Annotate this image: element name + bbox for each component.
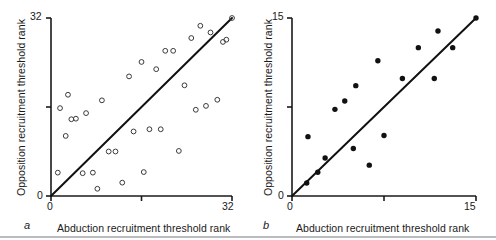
data-point — [120, 180, 125, 185]
data-point — [322, 155, 327, 160]
data-point — [215, 97, 220, 102]
panel-b: Opposition recruitment threshold rank Ab… — [248, 0, 496, 240]
data-point — [100, 98, 105, 103]
y-tick-min-a: 0 — [37, 189, 43, 201]
data-point — [473, 15, 478, 20]
data-point — [305, 134, 310, 139]
data-point — [400, 76, 405, 81]
data-point — [198, 23, 203, 28]
data-point — [66, 92, 71, 97]
identity-line — [292, 18, 476, 196]
y-tick-max-a: 32 — [30, 10, 42, 22]
data-point — [375, 58, 380, 63]
x-tick-min-a: 0 — [47, 200, 53, 212]
data-point — [342, 98, 347, 103]
data-point — [84, 111, 89, 116]
data-point — [193, 107, 198, 112]
x-tick-max-a: 32 — [222, 200, 234, 212]
data-point — [432, 76, 437, 81]
panel-letter-a: a — [24, 219, 30, 231]
data-point — [381, 133, 386, 138]
panel-a: Opposition recruitment threshold rank Ab… — [0, 0, 248, 240]
identity-line — [51, 18, 232, 196]
y-tick-max-b: 15 — [272, 10, 284, 22]
x-axis-label-b: Abduction recruitment threshold rank — [296, 222, 469, 234]
data-point — [208, 30, 213, 35]
data-point — [154, 67, 159, 72]
data-point — [106, 149, 111, 154]
y-tick-min-b: 0 — [278, 189, 284, 201]
y-axis-label-b: Opposition recruitment threshold rank — [262, 19, 274, 196]
panel-letter-b: b — [263, 219, 269, 231]
data-point — [127, 74, 132, 79]
data-point — [435, 28, 440, 33]
data-point — [176, 149, 181, 154]
data-point — [131, 129, 136, 134]
data-point — [158, 127, 163, 132]
data-point — [353, 83, 358, 88]
data-point — [63, 134, 68, 139]
x-tick-max-b: 15 — [464, 200, 476, 212]
x-tick-min-b: 0 — [287, 200, 293, 212]
data-point — [90, 170, 95, 175]
data-point — [367, 162, 372, 167]
data-point — [139, 60, 144, 65]
data-point — [332, 107, 337, 112]
figure-bottom-rule — [0, 236, 496, 238]
y-axis-label-a: Opposition recruitment threshold rank — [15, 19, 27, 196]
data-point — [450, 45, 455, 50]
data-point — [182, 83, 187, 88]
scatter-plot-a — [0, 0, 248, 240]
data-point — [304, 180, 309, 185]
data-point — [95, 186, 100, 191]
data-point — [80, 171, 85, 176]
data-point — [55, 170, 60, 175]
scatter-plot-b — [248, 0, 496, 240]
data-point — [189, 36, 194, 41]
data-point — [315, 170, 320, 175]
data-point — [204, 103, 209, 108]
data-point — [416, 45, 421, 50]
data-point — [171, 48, 176, 53]
data-point — [163, 48, 168, 53]
data-point — [141, 170, 146, 175]
data-point — [147, 127, 152, 132]
data-point — [113, 149, 118, 154]
data-point — [58, 106, 63, 111]
data-point — [351, 146, 356, 151]
x-axis-label-a: Abduction recruitment threshold rank — [57, 222, 230, 234]
figure-container: Opposition recruitment threshold rank Ab… — [0, 0, 496, 240]
